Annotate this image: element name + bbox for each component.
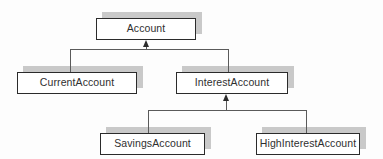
- class-box-account[interactable]: Account: [96, 18, 196, 40]
- connector-drop-high-interest-account: [306, 110, 307, 133]
- class-box-current-account[interactable]: CurrentAccount: [17, 72, 137, 94]
- connector-drop-interest-account: [228, 49, 229, 72]
- class-name-savings-account: SavingsAccount: [114, 138, 191, 150]
- connector-bar-interest-account: [148, 110, 306, 111]
- connector-stem-interest-account: [226, 101, 227, 110]
- uml-class-diagram: Account CurrentAccount InterestAccount S…: [0, 0, 383, 159]
- arrowhead-icon-interest-account: [223, 94, 229, 101]
- connector-drop-current-account: [70, 49, 71, 72]
- class-box-savings-account[interactable]: SavingsAccount: [100, 133, 205, 155]
- class-name-current-account: CurrentAccount: [40, 77, 114, 89]
- class-name-high-interest-account: HighInterestAccount: [260, 138, 356, 150]
- class-name-interest-account: InterestAccount: [195, 77, 269, 89]
- class-box-high-interest-account[interactable]: HighInterestAccount: [256, 133, 360, 155]
- arrowhead-icon-account: [143, 40, 149, 47]
- class-box-interest-account[interactable]: InterestAccount: [176, 72, 288, 94]
- class-name-account: Account: [127, 23, 166, 35]
- connector-bar-account: [70, 49, 228, 50]
- connector-drop-savings-account: [148, 110, 149, 133]
